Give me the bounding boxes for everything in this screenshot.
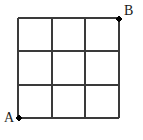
- point-label-a: A: [4, 111, 14, 125]
- figure-container: A B: [0, 0, 143, 140]
- point-label-b: B: [124, 4, 133, 18]
- endpoint-dot-b: [116, 16, 121, 21]
- endpoint-dot-a: [16, 115, 21, 120]
- canvas-background: [0, 0, 143, 140]
- grid-diagram-svg: [0, 0, 143, 140]
